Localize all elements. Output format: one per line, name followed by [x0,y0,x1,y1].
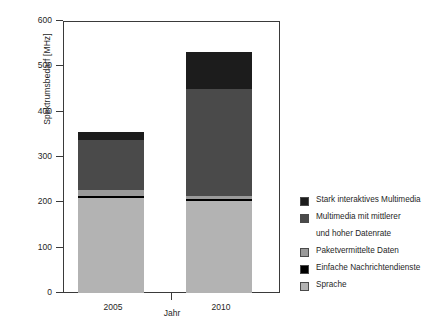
y-axis-tick-label: 500 [38,60,52,70]
bar-segment-sprache-2005[interactable] [78,198,144,293]
y-axis-tick-label: 200 [38,196,52,206]
legend-item-label: Einfache Nachrichtendienste [316,263,420,272]
y-axis-tick-label: 300 [38,151,52,161]
legend-item-label-line2: und hoher Datenrate [316,229,391,238]
bar-segment-stark-interaktives-multimedia-2010[interactable] [186,52,252,89]
legend-swatch-icon [300,282,309,291]
bar-2005[interactable] [78,22,144,293]
legend-item-label-continuation: und hoher Datenrate [300,227,444,244]
legend-item-stark-interaktives-multimedia[interactable]: Stark interaktives Multimedia [300,193,444,210]
y-axis-tick-label: 400 [38,106,52,116]
y-axis-tick-label: 0 [47,287,52,297]
y-axis-tick-mark [56,201,63,202]
bar-segment-paketvermittelte-daten-2005[interactable] [78,190,144,196]
bar-segment-paketvermittelte-daten-2010[interactable] [186,196,252,199]
y-axis-tick-label: 600 [38,15,52,25]
y-axis-tick-mark [56,65,63,66]
legend-swatch-icon [300,214,309,223]
legend-item-einfache-nachrichtendienste[interactable]: Einfache Nachrichtendienste [300,261,444,278]
x-axis-title: Jahr [132,308,212,318]
y-axis-tick-mark [56,156,63,157]
legend-item-label: Multimedia mit mittlerer [316,212,401,221]
legend-item-sprache[interactable]: Sprache [300,278,444,295]
y-axis-tick-mark [56,20,63,21]
legend-item-label: Stark interaktives Multimedia [316,195,421,204]
y-axis-tick-mark [56,292,63,293]
bar-segment-stark-interaktives-multimedia-2005[interactable] [78,132,144,140]
y-axis-tick-mark [56,111,63,112]
legend-item-paketvermittelte-daten[interactable]: Paketvermittelte Daten [300,244,444,261]
bar-segment-einfache-nachrichtendienste-2010[interactable] [186,199,252,201]
y-axis-tick-label: 100 [38,242,52,252]
bar-segment-multimedia-mittlerer-hoher-datenrate-2005[interactable] [78,140,144,190]
bar-segment-sprache-2010[interactable] [186,201,252,293]
plot-area [63,21,280,293]
bar-2010[interactable] [186,22,252,293]
legend-item-label: Sprache [316,280,347,289]
bar-segment-einfache-nachrichtendienste-2005[interactable] [78,196,144,198]
x-axis-tick-mark-center [171,293,172,300]
legend-swatch-icon [300,248,309,257]
legend: Stark interaktives Multimedia Multimedia… [300,193,444,295]
stacked-bar-chart: Spektrumsbedarf [MHz] 600 500 400 300 20… [0,0,444,324]
legend-item-label: Paketvermittelte Daten [316,246,399,255]
y-axis-tick-mark [56,247,63,248]
legend-swatch-icon [300,197,309,206]
legend-swatch-icon [300,265,309,274]
legend-item-multimedia-mittlerer-hoher-datenrate[interactable]: Multimedia mit mittlerer [300,210,444,227]
bar-segment-multimedia-mittlerer-hoher-datenrate-2010[interactable] [186,89,252,196]
